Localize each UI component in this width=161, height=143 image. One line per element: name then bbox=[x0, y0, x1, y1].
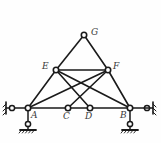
nodes-layer bbox=[25, 32, 132, 110]
node-A bbox=[25, 105, 30, 110]
node-B bbox=[127, 105, 132, 110]
truss-diagram: ABCDEFG bbox=[0, 0, 161, 143]
member-A-E bbox=[28, 70, 56, 108]
label-G: G bbox=[91, 28, 98, 37]
member-F-G bbox=[84, 35, 108, 70]
label-C: C bbox=[63, 112, 70, 121]
node-C bbox=[65, 105, 70, 110]
label-D: D bbox=[85, 112, 92, 121]
link-pin-left bbox=[9, 105, 14, 110]
node-F bbox=[105, 67, 110, 72]
node-D bbox=[87, 105, 92, 110]
node-G bbox=[81, 32, 86, 37]
label-E: E bbox=[42, 62, 49, 71]
ground-pin-left bbox=[25, 121, 30, 126]
member-E-G bbox=[56, 35, 84, 70]
label-B: B bbox=[120, 111, 127, 120]
label-F: F bbox=[113, 62, 119, 71]
label-A: A bbox=[31, 111, 38, 120]
ground-pin-right bbox=[127, 121, 132, 126]
truss-svg bbox=[0, 0, 161, 143]
members-layer bbox=[28, 35, 130, 108]
node-E bbox=[53, 67, 58, 72]
